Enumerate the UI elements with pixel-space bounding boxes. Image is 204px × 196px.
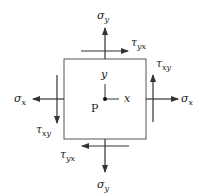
sigma-x-left-label: σx <box>14 92 27 107</box>
tau-xy-left-label: τxy <box>36 123 52 138</box>
tau-xy-right-label: τxy <box>156 57 172 72</box>
tau-yx-top-label: τyx <box>131 36 147 51</box>
local-x-axis-label: x <box>124 92 131 105</box>
local-y-axis-label: y <box>100 68 108 81</box>
sigma-y-bottom-label: σy <box>97 178 110 193</box>
stress-element-diagram: σy τyx σy τyx σx τxy σx τxy y x P <box>0 0 204 196</box>
point-p-label: P <box>91 102 99 115</box>
sigma-x-right-label: σx <box>181 92 194 107</box>
tau-yx-bottom-label: τyx <box>60 148 76 163</box>
sigma-y-top-label: σy <box>97 9 110 24</box>
diagram-canvas: σy τyx σy τyx σx τxy σx τxy y x P <box>0 0 204 196</box>
point-p-dot <box>103 97 107 101</box>
